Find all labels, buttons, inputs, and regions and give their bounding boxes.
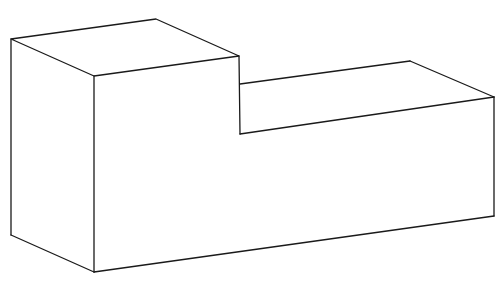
step-riser-edge	[239, 56, 240, 134]
step-top-front-edge	[240, 97, 494, 134]
step-region	[239, 56, 494, 134]
tall-block-top-face	[11, 19, 239, 76]
front-bottom-edge	[94, 216, 494, 272]
step-top-right-edge	[410, 61, 494, 97]
tall-top-face-outline	[11, 19, 239, 76]
step-top-back-edge	[240, 61, 410, 84]
stepped-block-drawing	[0, 0, 503, 281]
left-side-face	[11, 39, 94, 272]
left-bottom-edge	[11, 235, 94, 272]
